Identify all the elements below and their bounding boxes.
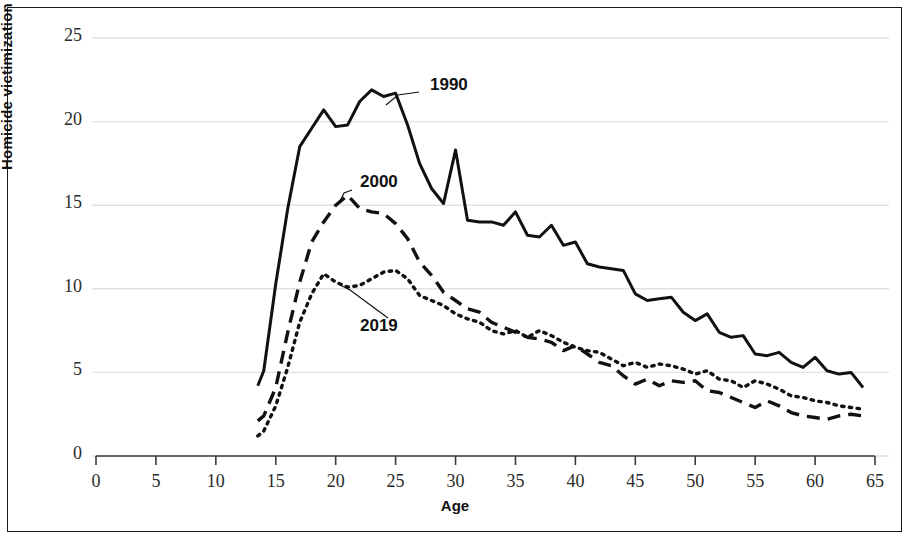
series-group	[258, 90, 863, 436]
x-tick-label-25: 25	[376, 471, 416, 492]
series-label-2000: 2000	[360, 172, 398, 192]
gridlines-group	[92, 38, 889, 456]
x-axis-title: Age	[0, 497, 910, 514]
x-tick-label-60: 60	[795, 471, 835, 492]
y-axis-title: Homicide victimization rate per 100,000	[0, 0, 15, 170]
series-line-2000	[258, 195, 863, 421]
chart-figure: Homicide victimization rate per 100,000 …	[0, 0, 910, 547]
series-label-1990: 1990	[430, 75, 468, 95]
x-tick-label-5: 5	[136, 471, 176, 492]
x-tick-label-15: 15	[256, 471, 296, 492]
x-tick-label-65: 65	[855, 471, 895, 492]
x-tick-label-0: 0	[76, 471, 116, 492]
axes-lines-group	[96, 456, 875, 465]
axis-ticks-group	[156, 456, 815, 465]
x-tick-label-50: 50	[675, 471, 715, 492]
x-tick-label-30: 30	[436, 471, 476, 492]
series-label-2019: 2019	[360, 316, 398, 336]
y-tick-label-20: 20	[36, 109, 82, 130]
x-tick-label-40: 40	[555, 471, 595, 492]
x-tick-label-10: 10	[196, 471, 236, 492]
y-tick-label-0: 0	[36, 443, 82, 464]
x-tick-label-45: 45	[615, 471, 655, 492]
y-tick-label-5: 5	[36, 359, 82, 380]
y-tick-label-25: 25	[36, 25, 82, 46]
x-tick-label-55: 55	[735, 471, 775, 492]
leader-line-2019	[340, 285, 388, 318]
x-tick-label-35: 35	[495, 471, 535, 492]
y-tick-label-10: 10	[36, 276, 82, 297]
y-tick-label-15: 15	[36, 192, 82, 213]
series-line-1990	[258, 90, 863, 388]
x-tick-label-20: 20	[316, 471, 356, 492]
